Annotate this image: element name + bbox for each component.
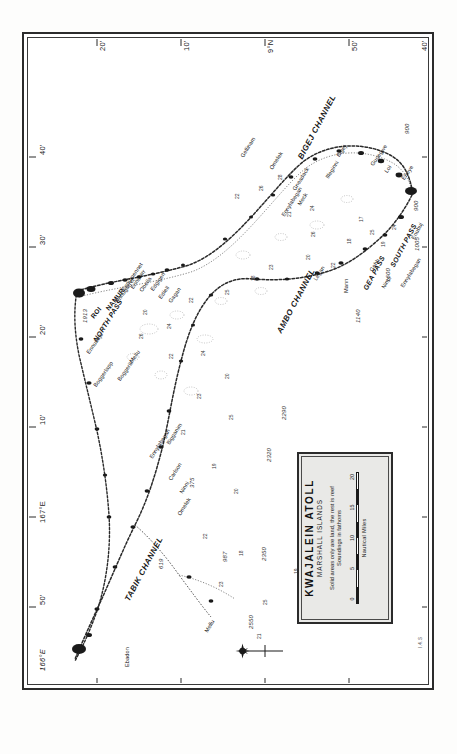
scale-tick-0: 0: [349, 594, 355, 604]
sounding-13: 23: [269, 264, 274, 270]
lon-tick-3: 10': [39, 414, 47, 425]
scale-tick-labels: 0 5 10 15 20: [349, 472, 355, 604]
lon-tick-2: 20': [39, 324, 47, 335]
deep-sounding-8: 2320: [266, 448, 272, 462]
chart-subtitle: MARSHALL ISLANDS: [316, 499, 323, 577]
sounding-19: 26: [139, 333, 144, 339]
deep-sounding-7: 2290: [281, 406, 287, 420]
sounding-28: 22: [203, 533, 208, 539]
scale-caption: Nautical Miles: [361, 472, 367, 604]
lat-tick-2: 9°N: [267, 40, 275, 54]
lon-tick-1: 30': [39, 234, 47, 245]
deep-sounding-6: 1140: [355, 309, 361, 323]
lat-tick-4: 40': [421, 40, 427, 51]
sounding-21: 24: [201, 350, 206, 356]
compass-rose: [231, 638, 291, 664]
deep-sounding-9: 2350: [261, 547, 267, 561]
sounding-14: 18: [251, 275, 256, 281]
lon-tick-0: 40': [39, 144, 47, 155]
sounding-9: 24: [392, 224, 397, 230]
deep-sounding-10: 2550: [248, 615, 254, 629]
lat-tick-0: 20': [99, 40, 107, 51]
cartouche-content: KWAJALEIN ATOLL MARSHALL ISLANDS Solid a…: [301, 456, 389, 620]
sounding-20: 22: [169, 353, 174, 359]
scale-bar-group: 0 5 10 15 20 Nautical Miles: [349, 472, 367, 604]
lat-tick-3: 50': [351, 40, 359, 51]
lon-tick-4: 167°E: [39, 501, 47, 523]
cartouche-inner-border: KWAJALEIN ATOLL MARSHALL ISLANDS Solid a…: [301, 456, 389, 620]
sounding-4: 24: [310, 205, 315, 211]
deep-sounding-14: 1913: [82, 309, 88, 323]
sounding-7: 25: [370, 229, 375, 235]
sounding-18: 20: [143, 309, 148, 315]
legend-note-land: Solid areas only are land, the rest is r…: [329, 486, 335, 590]
sounding-1: 26: [259, 185, 264, 191]
sounding-12: 20: [306, 254, 311, 260]
deep-sounding-4: 1005: [414, 237, 420, 251]
island-label-12: Mann: [344, 279, 350, 293]
deep-sounding-15: 375: [189, 477, 195, 488]
lat-tick-1: 10': [183, 40, 191, 51]
sounding-17: 24: [167, 323, 172, 329]
deep-sounding-12: 987: [222, 551, 228, 562]
sounding-0: 22: [235, 193, 240, 199]
scale-tick-4: 20: [349, 472, 355, 482]
sounding-26: 19: [212, 463, 217, 469]
sounding-15: 25: [225, 289, 230, 295]
sounding-6: 17: [359, 216, 364, 222]
title-cartouche: KWAJALEIN ATOLL MARSHALL ISLANDS Solid a…: [297, 452, 393, 624]
sounding-16: 22: [189, 297, 194, 303]
sounding-11: 22: [331, 262, 336, 268]
legend-note-soundings: Soundings in fathoms: [336, 510, 342, 566]
north-star-icon: [236, 644, 250, 659]
sounding-29: 18: [239, 550, 244, 556]
sounding-31: 25: [263, 599, 268, 605]
sounding-5: 26: [311, 231, 316, 237]
sounding-2: 28: [278, 174, 283, 180]
sounding-22: 20: [225, 373, 230, 379]
scale-bar: [356, 472, 360, 604]
sounding-25: 21: [181, 429, 186, 435]
island-label-33: Ebadon: [125, 647, 131, 667]
sounding-30: 23: [219, 581, 224, 587]
chart-title: KWAJALEIN ATOLL: [304, 479, 315, 597]
sounding-24: 25: [229, 414, 234, 420]
sounding-10: 18: [347, 238, 352, 244]
chart-page: 20' 10' 9°N 50' 40' 40' 30' 20' 10' 167°…: [0, 0, 457, 754]
figure-credit: I.4.S: [418, 637, 423, 648]
deep-sounding-13: 619: [158, 558, 164, 569]
deep-sounding-3: 900: [413, 200, 419, 211]
lon-tick-5: 50': [39, 594, 47, 605]
scale-tick-1: 5: [349, 564, 355, 574]
sounding-23: 23: [197, 393, 202, 399]
sounding-8: 19: [381, 241, 386, 247]
scale-tick-2: 10: [349, 533, 355, 543]
scale-tick-3: 15: [349, 503, 355, 513]
deep-sounding-5: 1600: [385, 268, 391, 282]
sounding-3: 21: [287, 211, 292, 217]
lon-corner-bottom: 166°E: [39, 649, 47, 671]
sounding-27: 20: [234, 488, 239, 494]
deep-sounding-0: 900: [404, 123, 410, 134]
